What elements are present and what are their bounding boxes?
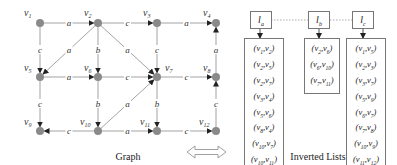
list-entry: (v10,v9) — [349, 137, 383, 153]
edge-label: a — [125, 126, 130, 136]
inverted-list-lb: (v2,v6)(v6,v10)(v7,v11) — [304, 38, 340, 94]
graph-node-v2 — [94, 19, 102, 27]
list-entry: (v1,v5) — [349, 42, 383, 58]
edge-label: c — [185, 72, 189, 82]
node-label: v8 — [203, 62, 210, 74]
edge-label: a — [214, 45, 219, 55]
edge-label: c — [67, 126, 71, 136]
list-entry: (v7,v8) — [349, 121, 383, 137]
edge-label: c — [214, 99, 218, 109]
list-entry: (v2,v3) — [349, 58, 383, 74]
graph-caption: Graph — [116, 151, 141, 162]
edge-label: a — [67, 72, 72, 82]
edge-label: c — [38, 99, 42, 109]
graph-node-v8 — [212, 73, 220, 81]
list-entry: (v2,v5) — [247, 58, 281, 74]
graph-node-v3 — [153, 19, 161, 27]
graph-edges: acacabacaacccbabccac — [37, 18, 220, 136]
node-label: v4 — [203, 7, 210, 19]
inverted-list-lc: (v1,v5)(v2,v3)(v3,v7)(v5,v9)(v6,v7)(v7,v… — [346, 38, 386, 165]
list-entry: (v1,v2) — [247, 42, 281, 58]
graph-nodes: v1v2v3v4v5v6v7v8v9v10v11v12 — [24, 7, 220, 135]
list-entry: (v7,v11) — [307, 74, 337, 90]
node-label: v1 — [24, 7, 31, 19]
list-entry: (v11,v12) — [349, 153, 383, 165]
double-arrow-icon — [187, 146, 226, 158]
edge-label: a — [125, 99, 130, 109]
node-label: v11 — [140, 116, 150, 128]
node-label: v3 — [143, 7, 150, 19]
edge-label: a — [184, 18, 189, 28]
list-entry: (v10,v7) — [247, 137, 281, 153]
inverted-list-la: (v1,v2)(v2,v5)(v2,v7)(v3,v4)(v5,v6)(v8,v… — [244, 38, 284, 165]
list-entry: (v8,v4) — [247, 121, 281, 137]
list-entry: (v2,v6) — [307, 42, 337, 58]
graph-node-v6 — [94, 73, 102, 81]
graph-node-v5 — [36, 73, 44, 81]
edge-label: c — [126, 72, 130, 82]
list-entry: (v3,v7) — [349, 74, 383, 90]
node-label: v9 — [24, 116, 31, 128]
edge-label: b — [96, 99, 101, 109]
list-header-lb: lb — [308, 11, 330, 29]
list-entry: (v6,v10) — [307, 58, 337, 74]
edge-label: c — [185, 126, 189, 136]
node-label: v7 — [165, 62, 173, 74]
edge-label: c — [38, 45, 42, 55]
graph-node-v9 — [36, 127, 44, 135]
edge-label: a — [67, 18, 72, 28]
graph-node-v4 — [212, 19, 220, 27]
edge-label: b — [155, 99, 160, 109]
inverted-lists-caption: Inverted Lists — [290, 151, 345, 162]
graph-node-v1 — [36, 19, 44, 27]
node-label: v12 — [199, 116, 209, 128]
list-entry: (v5,v6) — [247, 106, 281, 122]
node-label: v6 — [84, 62, 91, 74]
list-entry: (v6,v7) — [349, 106, 383, 122]
node-label: v2 — [84, 7, 91, 19]
list-entry: (v2,v7) — [247, 74, 281, 90]
edge-label: b — [96, 45, 101, 55]
graph-node-v7 — [153, 73, 161, 81]
graph-node-v10 — [94, 127, 102, 135]
list-header-la: la — [250, 11, 272, 29]
edge-label: a — [67, 45, 72, 55]
list-header-lc: lc — [352, 11, 374, 29]
node-label: v10 — [80, 116, 90, 128]
edge-label: c — [126, 18, 130, 28]
graph-node-v12 — [212, 127, 220, 135]
graph-node-v11 — [153, 127, 161, 135]
list-entry: (v3,v4) — [247, 90, 281, 106]
node-label: v5 — [24, 62, 31, 74]
edge-label: a — [125, 45, 130, 55]
list-entry: (v5,v9) — [349, 90, 383, 106]
list-entry: (v10,v11) — [247, 153, 281, 165]
edge-label: c — [155, 45, 159, 55]
